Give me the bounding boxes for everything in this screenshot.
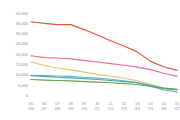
line-chart: 05,00010,00015,00020,00025,00030,00035,0… <box>0 0 180 120</box>
plot-area <box>0 0 180 120</box>
data-series-line <box>31 56 177 77</box>
data-series-line <box>31 75 177 92</box>
